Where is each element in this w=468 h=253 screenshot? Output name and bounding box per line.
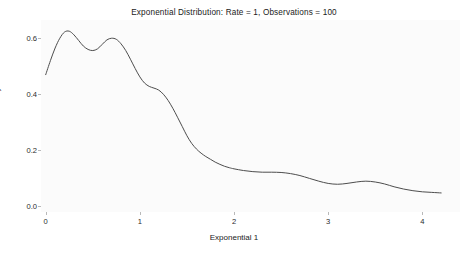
y-tick-label: 0.6 [0, 34, 37, 43]
density-curve-svg [41, 20, 460, 212]
y-tick-label: 0.4 [0, 90, 37, 99]
x-tick-mark [422, 212, 423, 215]
density-curve-path [46, 31, 441, 193]
x-tick-mark [46, 212, 47, 215]
x-tick-label: 2 [219, 217, 249, 226]
y-tick-mark [38, 150, 41, 151]
y-tick-mark [38, 94, 41, 95]
y-tick-mark [38, 38, 41, 39]
y-axis-label: Density [0, 71, 1, 131]
x-axis-label: Exponential 1 [0, 233, 468, 242]
x-tick-label: 3 [313, 217, 343, 226]
x-tick-label: 1 [125, 217, 155, 226]
x-tick-label: 0 [31, 217, 61, 226]
plot-panel [41, 20, 460, 212]
y-tick-label: 0.2 [0, 146, 37, 155]
x-tick-label: 4 [407, 217, 437, 226]
y-tick-mark [38, 206, 41, 207]
x-tick-mark [140, 212, 141, 215]
chart-title: Exponential Distribution: Rate = 1, Obse… [0, 8, 468, 17]
chart-figure: Exponential Distribution: Rate = 1, Obse… [0, 0, 468, 253]
y-tick-label: 0.0 [0, 202, 37, 211]
x-tick-mark [328, 212, 329, 215]
x-tick-mark [234, 212, 235, 215]
